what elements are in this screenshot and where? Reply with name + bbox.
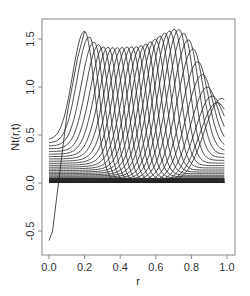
x-tick-label: 1.0	[219, 261, 234, 273]
y-tick-label: 0.5	[24, 127, 36, 142]
steep-series-line	[49, 31, 85, 240]
chart: 0.00.20.40.60.81.0 -0.50.00.51.01.5 r Nt…	[0, 0, 250, 296]
x-tick-label: 0.8	[184, 261, 199, 273]
x-axis: 0.00.20.40.60.81.0	[41, 255, 234, 273]
x-tick-label: 0.2	[77, 261, 92, 273]
x-tick-label: 0.4	[113, 261, 128, 273]
y-tick-label: -0.5	[24, 222, 36, 241]
y-tick-label: 0.0	[24, 175, 36, 190]
plot-frame	[42, 19, 235, 255]
x-tick-label: 0.6	[148, 261, 163, 273]
y-tick-label: 1.0	[24, 79, 36, 94]
y-axis-title: Nt(r,t)	[9, 123, 21, 151]
x-tick-label: 0.0	[41, 261, 56, 273]
y-axis: -0.50.00.51.01.5	[24, 31, 42, 240]
curve-group	[49, 29, 224, 240]
y-tick-label: 1.5	[24, 31, 36, 46]
x-axis-title: r	[136, 275, 140, 287]
